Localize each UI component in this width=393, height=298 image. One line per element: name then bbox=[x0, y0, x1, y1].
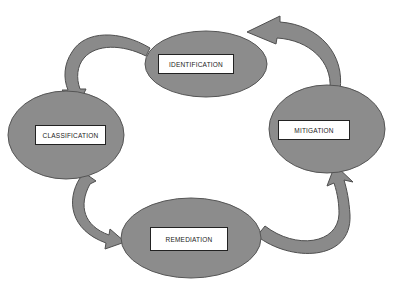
cycle-diagram bbox=[0, 0, 393, 298]
label-identification-text: IDENTIFICATION bbox=[169, 61, 223, 68]
label-classification: CLASSIFICATION bbox=[35, 125, 106, 145]
label-mitigation-text: MITIGATION bbox=[294, 127, 333, 134]
label-remediation: REMEDIATION bbox=[150, 227, 228, 251]
label-identification: IDENTIFICATION bbox=[158, 54, 234, 74]
arrow-classification-to-remediation bbox=[73, 174, 125, 249]
label-mitigation: MITIGATION bbox=[278, 120, 350, 140]
label-remediation-text: REMEDIATION bbox=[166, 236, 213, 243]
arrow-remediation-to-mitigation bbox=[257, 165, 353, 253]
label-classification-text: CLASSIFICATION bbox=[43, 132, 99, 139]
